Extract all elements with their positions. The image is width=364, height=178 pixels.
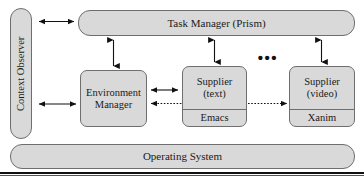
- block-supplier-video-line2-text: (video): [307, 88, 337, 99]
- block-operating-system: Operating System: [10, 144, 355, 169]
- block-supplier-video-line1: Supplier (video): [304, 76, 340, 100]
- block-context-observer: Context Observer: [10, 8, 32, 139]
- block-supplier-text-implementation: Emacs: [183, 110, 246, 126]
- block-supplier-text-line2-text: (text): [203, 88, 226, 99]
- block-environment-manager-line2: Manager: [95, 99, 132, 110]
- bottom-rule-thin-line: [0, 175, 364, 176]
- block-supplier-text-line1-text: Supplier: [197, 76, 233, 87]
- block-context-observer-label: Context Observer: [15, 36, 27, 110]
- figure-canvas: Context Observer Task Manager (Prism) En…: [0, 0, 364, 178]
- bottom-rule: [0, 172, 364, 176]
- block-supplier-text-title: Supplier (text): [183, 67, 246, 109]
- block-environment-manager: Environment Manager: [80, 70, 147, 127]
- block-supplier-text: Supplier (text) Emacs: [182, 66, 247, 127]
- block-supplier-video-implementation: Xanim: [290, 110, 354, 126]
- block-environment-manager-line1: Environment: [86, 87, 141, 98]
- bottom-rule-thick-line: [0, 172, 364, 174]
- block-supplier-video-title: Supplier (video): [290, 67, 354, 109]
- block-operating-system-label: Operating System: [143, 150, 222, 162]
- block-supplier-text-line1: Supplier (text): [197, 76, 233, 100]
- block-task-manager-label: Task Manager (Prism): [167, 17, 265, 29]
- ellipsis-indicator: •••: [256, 52, 280, 64]
- block-supplier-video: Supplier (video) Xanim: [289, 66, 355, 127]
- block-supplier-video-line1-text: Supplier: [304, 76, 340, 87]
- block-task-manager: Task Manager (Prism): [78, 10, 355, 36]
- block-environment-manager-label: Environment Manager: [86, 87, 141, 111]
